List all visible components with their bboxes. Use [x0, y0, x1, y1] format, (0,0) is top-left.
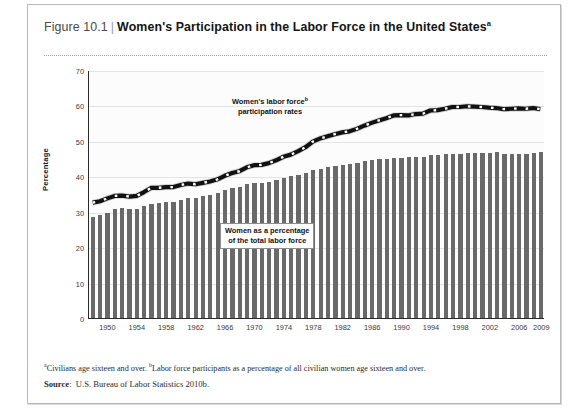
footnotes: aCivilians age sixteen and over. bLabor … — [44, 360, 549, 390]
bar — [105, 213, 109, 318]
bar — [517, 154, 521, 318]
bar — [274, 180, 278, 318]
y-axis-tick: 60 — [76, 102, 84, 111]
figure-number: Figure 10.1 — [44, 20, 108, 34]
bar — [495, 152, 499, 319]
bar — [326, 167, 330, 318]
gridline — [89, 71, 544, 72]
source-label: Source — [44, 379, 69, 389]
bar — [142, 206, 146, 318]
bar — [319, 169, 323, 318]
bar — [267, 182, 271, 318]
x-axis-tick: 1982 — [335, 323, 351, 332]
bar — [436, 155, 440, 318]
bar — [385, 159, 389, 318]
bar — [216, 193, 220, 318]
source-line: Source: U.S. Bureau of Labor Statistics … — [44, 378, 549, 390]
x-axis-tick: 1998 — [452, 323, 468, 332]
bar — [355, 163, 359, 318]
bar — [473, 153, 477, 318]
annotation-bar-label-line1: Women as a percentage — [225, 226, 309, 235]
bar — [363, 161, 367, 318]
x-axis-tick: 1970 — [246, 323, 262, 332]
y-axis-tick: 30 — [76, 208, 84, 217]
bar — [414, 157, 418, 318]
x-axis-tick: 1994 — [423, 323, 439, 332]
figure-card: Figure 10.1|Women's Participation in the… — [27, 4, 561, 404]
annotation-line-label-superscript: b — [305, 96, 308, 102]
footnote-text-b: Labor force participants as a percentage… — [152, 364, 425, 373]
annotation-line-label-line2: participation rates — [238, 107, 302, 116]
bar — [164, 202, 168, 318]
gridline — [89, 142, 544, 143]
bar — [179, 200, 183, 318]
x-axis-tick: 1958 — [158, 323, 174, 332]
bar — [466, 153, 470, 318]
annotation-bar-label: Women as a percentage of the total labor… — [220, 223, 314, 249]
bar — [230, 188, 234, 318]
page-title: Women's Participation in the Labor Force… — [117, 20, 491, 34]
source-text: U.S. Bureau of Labor Statistics 2010b. — [76, 379, 209, 389]
bar — [186, 198, 190, 318]
bar — [451, 154, 455, 318]
bar — [91, 217, 95, 318]
bar — [444, 154, 448, 318]
bar — [223, 190, 227, 318]
bar — [510, 154, 514, 318]
bar — [127, 209, 131, 318]
bar — [149, 204, 153, 318]
x-axis-tick: 1962 — [187, 323, 203, 332]
footnote-definitions: aCivilians age sixteen and over. bLabor … — [44, 360, 549, 374]
x-axis-tick: 1954 — [129, 323, 145, 332]
figure-title-superscript: a — [487, 19, 491, 28]
title-divider — [44, 55, 547, 56]
x-axis-tick: 2009 — [533, 323, 549, 332]
y-axis-tick: 20 — [76, 244, 84, 253]
bar — [208, 195, 212, 318]
y-axis-tick: 40 — [76, 173, 84, 182]
x-axis-tick: 1950 — [99, 323, 115, 332]
bar — [194, 198, 198, 318]
x-axis-tick: 1974 — [276, 323, 292, 332]
bar — [429, 155, 433, 318]
y-axis-tick: 70 — [76, 67, 84, 76]
bar — [113, 209, 117, 318]
bar — [238, 187, 242, 318]
x-axis-tick: 1990 — [393, 323, 409, 332]
x-axis-tick: 1978 — [305, 323, 321, 332]
bar — [348, 164, 352, 318]
bar — [201, 196, 205, 318]
bar — [532, 153, 536, 318]
bar — [524, 154, 528, 318]
bar — [157, 203, 161, 318]
bar — [171, 202, 175, 318]
bar — [502, 154, 506, 318]
bar — [120, 208, 124, 318]
source-separator: : — [69, 379, 71, 389]
bar — [135, 209, 139, 318]
x-axis-tick: 2002 — [482, 323, 498, 332]
bar — [458, 154, 462, 318]
bar — [539, 152, 543, 318]
bar — [98, 215, 102, 318]
bar — [370, 160, 374, 318]
figure-title-text: Women's Participation in the Labor Force… — [117, 20, 487, 34]
annotation-line-label-line1: Women's labor force — [232, 97, 305, 106]
bar — [407, 157, 411, 318]
bar — [399, 158, 403, 318]
bar — [488, 153, 492, 318]
bar — [480, 153, 484, 318]
bar — [341, 165, 345, 318]
annotation-line-label: Women's labor forceb participation rates — [205, 93, 335, 119]
chart-area: Percentage 010203040506070 1950195419581… — [44, 63, 547, 353]
title-separator: | — [108, 20, 117, 34]
footnote-text-a: Civilians age sixteen and over. — [47, 364, 149, 373]
plot-area: 010203040506070 195019541958196219661970… — [88, 71, 544, 319]
bar — [392, 158, 396, 318]
y-axis-tick: 50 — [76, 137, 84, 146]
x-axis-tick: 2006 — [511, 323, 527, 332]
bar — [377, 159, 381, 318]
y-axis-tick: 10 — [76, 279, 84, 288]
annotation-bar-label-line2: of the total labor force — [228, 236, 306, 245]
figure-title-block: Figure 10.1|Women's Participation in the… — [44, 15, 544, 36]
